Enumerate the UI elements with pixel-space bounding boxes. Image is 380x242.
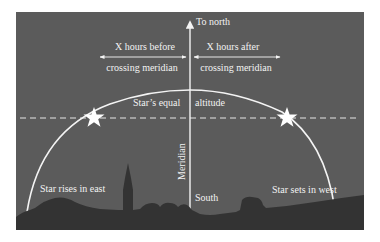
- star-rises-label: Star rises in east: [40, 184, 105, 194]
- equal-altitude-label-left: Star’s equal: [133, 98, 180, 108]
- hours-after-label-line1: X hours after: [207, 42, 260, 52]
- star-icon-right: [277, 107, 298, 127]
- star-icon-left: [84, 107, 105, 127]
- meridian-label: Meridian: [177, 143, 187, 180]
- star-sets-label: Star sets in west: [272, 185, 337, 195]
- diagram-graphics: [0, 0, 380, 242]
- equal-altitude-label-right: altitude: [195, 98, 225, 108]
- hours-after-label-line2: crossing meridian: [200, 63, 271, 73]
- to-north-label: To north: [196, 17, 230, 27]
- south-label: South: [195, 193, 218, 203]
- hours-before-label-line2: crossing meridian: [106, 63, 177, 73]
- hours-before-label-line1: X hours before: [115, 42, 175, 52]
- diagram-canvas: To north X hours before crossing meridia…: [0, 0, 380, 242]
